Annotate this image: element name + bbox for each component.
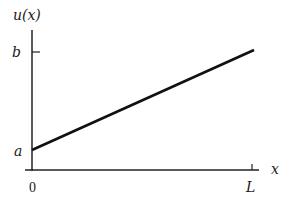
x-tick-label-L: L [245, 179, 255, 195]
y-tick-label-b: b [12, 44, 21, 60]
y-intercept-label-a: a [14, 143, 22, 159]
x-axis-label: x [271, 161, 279, 177]
y-axis-label: u(x) [13, 7, 41, 23]
function-line [32, 50, 254, 150]
x-tick-label-0: 0 [29, 180, 36, 195]
plot-canvas: u(x) b a 0 L x [0, 0, 291, 202]
